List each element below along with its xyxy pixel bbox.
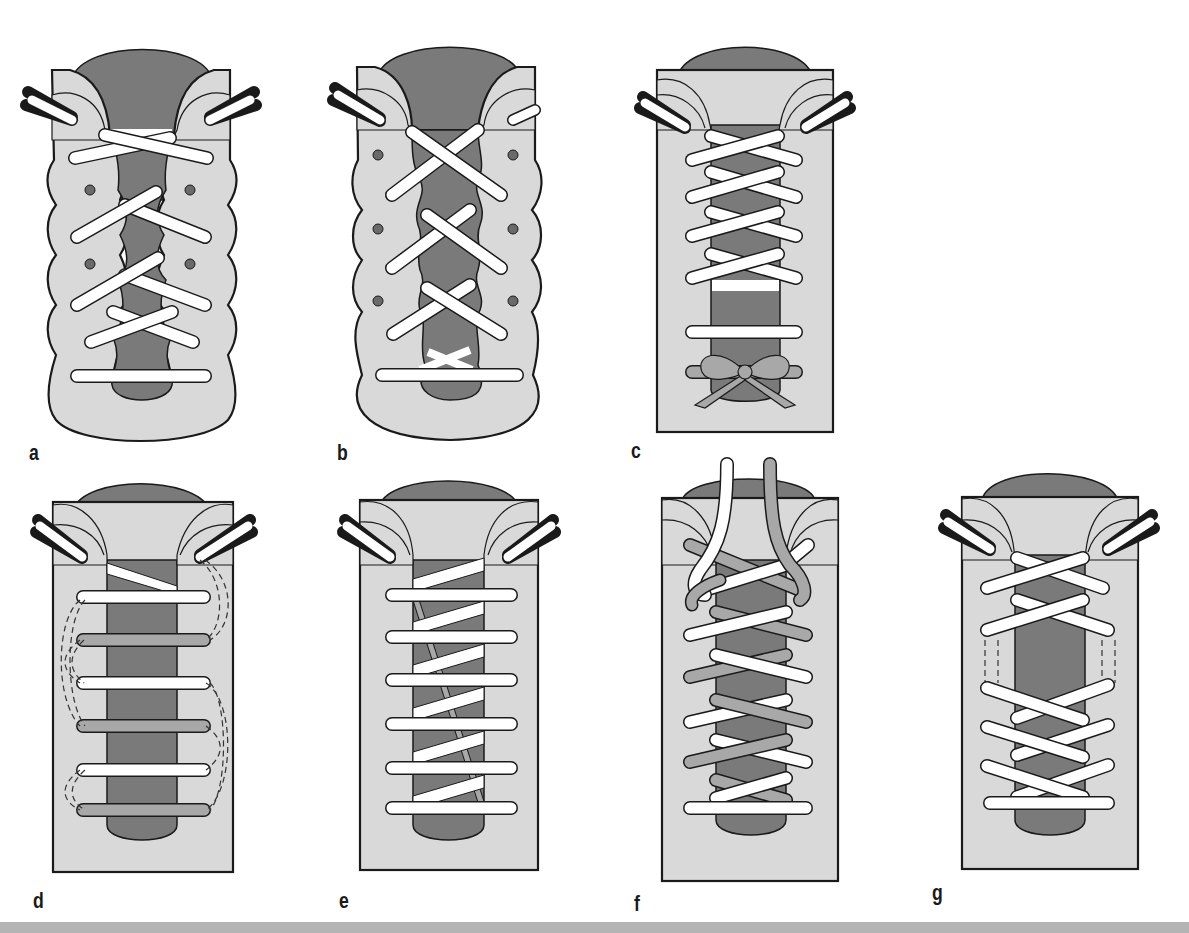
panel-c-diagram bbox=[640, 47, 850, 432]
bottom-divider-strip bbox=[0, 922, 1189, 933]
panel-b-diagram bbox=[333, 47, 541, 440]
panel-label-d: d bbox=[33, 888, 44, 914]
panel-label-a: a bbox=[29, 440, 39, 466]
panel-d-diagram bbox=[36, 484, 252, 872]
panel-label-b: b bbox=[337, 440, 348, 466]
panel-label-g: g bbox=[932, 880, 943, 906]
panel-label-e: e bbox=[339, 888, 349, 914]
panel-label-c: c bbox=[631, 438, 641, 464]
panel-f-diagram bbox=[662, 464, 838, 881]
panel-a-diagram bbox=[26, 50, 256, 442]
panel-label-f: f bbox=[634, 891, 640, 917]
panel-e-diagram bbox=[343, 481, 555, 870]
panel-g-diagram bbox=[944, 474, 1154, 869]
lacing-diagram-canvas: .body { fill: #d9d9d9; stroke: #1a1a1a; … bbox=[0, 0, 1189, 933]
